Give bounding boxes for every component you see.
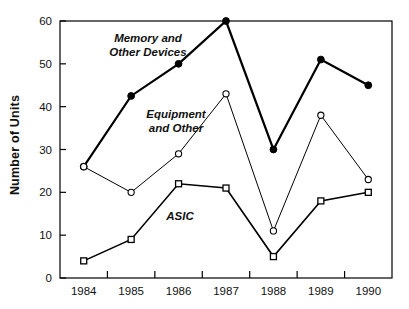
- x-tick-label: 1989: [308, 285, 334, 297]
- data-point-marker: [223, 185, 229, 191]
- y-axis-title: Number of Units: [8, 95, 22, 195]
- data-point-marker: [175, 151, 181, 157]
- data-point-marker: [128, 93, 135, 100]
- data-point-marker: [128, 189, 134, 195]
- y-tick-label: 40: [39, 101, 52, 113]
- y-tick-label: 60: [39, 15, 52, 27]
- y-tick-label: 0: [46, 272, 52, 284]
- data-point-marker: [318, 112, 324, 118]
- data-point-marker: [317, 56, 324, 63]
- y-tick-label: 20: [39, 186, 52, 198]
- series-annotation-label: Memory and: [114, 32, 183, 44]
- data-point-marker: [128, 236, 134, 242]
- series-annotation-label: ASIC: [165, 210, 194, 222]
- data-point-marker: [270, 254, 276, 260]
- data-point-marker: [223, 91, 229, 97]
- x-tick-label: 1985: [118, 285, 144, 297]
- x-tick-label: 1988: [261, 285, 287, 297]
- series-line-1: [84, 94, 369, 231]
- line-chart-plot: 0102030405060 19841985198619871988198919…: [0, 0, 409, 309]
- series-annotation-label: Equipment: [146, 108, 207, 120]
- series-annotation-label: and Other: [149, 122, 204, 134]
- chart-container: Number of Units 0102030405060 1984198519…: [0, 0, 409, 309]
- x-tick-label: 1986: [166, 285, 192, 297]
- data-point-marker: [81, 164, 87, 170]
- series-annotation-label: Other Devices: [109, 46, 186, 58]
- axis-frame: [60, 21, 392, 278]
- data-point-marker: [270, 146, 277, 153]
- y-axis-ticks: 0102030405060: [39, 15, 66, 284]
- x-tick-label: 1990: [355, 285, 381, 297]
- series-annotations-group: Memory andOther DevicesEquipmentand Othe…: [109, 32, 207, 222]
- series-line-2: [84, 184, 369, 261]
- data-point-marker: [175, 60, 182, 67]
- data-point-marker: [365, 189, 371, 195]
- data-point-marker: [176, 181, 182, 187]
- y-axis-title-wrap: Number of Units: [0, 0, 30, 290]
- x-axis-ticks: 1984198519861987198819891990: [71, 271, 381, 297]
- y-tick-label: 30: [39, 144, 52, 156]
- data-point-marker: [81, 258, 87, 264]
- data-point-marker: [365, 82, 372, 89]
- x-tick-label: 1987: [213, 285, 239, 297]
- y-tick-label: 50: [39, 58, 52, 70]
- x-tick-label: 1984: [71, 285, 97, 297]
- data-point-marker: [365, 176, 371, 182]
- data-point-marker: [318, 198, 324, 204]
- data-point-marker: [223, 18, 230, 25]
- data-point-marker: [270, 228, 276, 234]
- y-tick-label: 10: [39, 229, 52, 241]
